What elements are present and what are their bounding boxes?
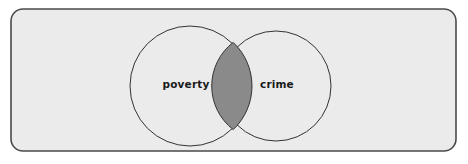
venn-diagram-canvas: poverty crime [0, 0, 468, 164]
set-label-poverty: poverty [163, 78, 210, 90]
set-label-crime: crime [260, 78, 294, 90]
venn-diagram-svg: poverty crime [0, 0, 468, 164]
